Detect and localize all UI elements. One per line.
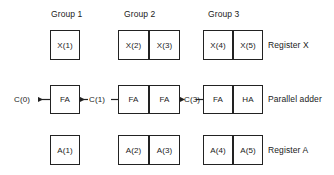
register-a-cell-2: A(2): [118, 135, 149, 165]
carry-label-c0: C(0): [14, 95, 30, 104]
register-a-cell-3: A(3): [149, 135, 180, 165]
parallel-adder-cell-2: FA: [118, 85, 149, 114]
register-x-cell-1: X(1): [50, 30, 80, 60]
register-a-cell-4: A(4): [203, 135, 233, 165]
group-header-1: Group 1: [51, 9, 82, 19]
register-a-cell-1: A(1): [50, 135, 80, 165]
carry-label-c1: C(1): [89, 95, 105, 104]
register-x-cell-2: X(2): [118, 30, 149, 60]
group-header-2: Group 2: [124, 9, 155, 19]
register-a-cell-5: A(5): [233, 135, 263, 165]
row-label-register-x: Register X: [268, 40, 309, 50]
row-label-parallel-adder: Parallel adder: [268, 94, 322, 104]
parallel-adder-cell-1: FA: [50, 85, 80, 114]
group-header-3: Group 3: [208, 9, 239, 19]
parallel-adder-cell-3: FA: [149, 85, 180, 114]
parallel-adder-cell-5: HA: [233, 85, 263, 114]
register-x-cell-4: X(4): [203, 30, 233, 60]
register-x-cell-5: X(5): [233, 30, 263, 60]
register-x-cell-3: X(3): [149, 30, 180, 60]
parallel-adder-diagram: Group 1 Group 2 Group 3 X(1) X(2) X(3) X…: [0, 0, 334, 175]
carry-label-c3: C(3): [184, 95, 200, 104]
parallel-adder-cell-4: FA: [203, 85, 233, 114]
row-label-register-a: Register A: [268, 145, 308, 155]
